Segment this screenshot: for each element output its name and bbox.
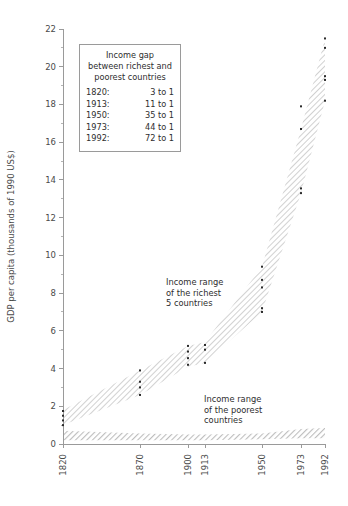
data-point: [261, 286, 263, 288]
legend-row-year: 1992:: [86, 133, 110, 145]
x-tick-label: 1870: [135, 454, 145, 476]
y-axis-title-text: GDP per capita (thousands of 1990 US$): [6, 150, 16, 322]
richest-annotation-line-1: Income range: [166, 277, 223, 288]
data-point: [300, 105, 302, 107]
legend-row-ratio: 3 to 1: [150, 87, 174, 99]
poorest-annotation-line-3: countries: [204, 415, 262, 426]
legend-row: 1913:11 to 1: [86, 99, 174, 111]
data-point: [261, 266, 263, 268]
y-axis-ticks: [59, 29, 63, 444]
richest-annotation-line-3: 5 countries: [166, 298, 223, 309]
data-point: [261, 311, 263, 313]
y-tick-label: 8: [51, 288, 56, 298]
y-tick-label: 16: [45, 137, 56, 147]
y-tick-label: 12: [45, 213, 56, 223]
legend-row: 1950:35 to 1: [86, 110, 174, 122]
y-tick-label: 0: [51, 439, 56, 449]
x-tick-label: 1973: [296, 454, 306, 476]
data-point: [261, 307, 263, 309]
data-point: [324, 100, 326, 102]
legend-row-ratio: 11 to 1: [145, 99, 174, 111]
richest-annotation-line-2: of the richest: [166, 288, 223, 299]
legend-row-year: 1950:: [86, 110, 110, 122]
legend-title-line-2: between richest and: [86, 61, 174, 72]
y-tick-label: 18: [45, 99, 56, 109]
data-point: [324, 79, 326, 81]
y-tick-label: 14: [45, 175, 56, 185]
x-tick-label: 1900: [183, 454, 193, 476]
y-tick-label: 4: [51, 364, 56, 374]
legend-row-ratio: 44 to 1: [145, 122, 174, 134]
y-axis-title: GDP per capita (thousands of 1990 US$): [6, 150, 16, 322]
x-tick-label: 1950: [257, 454, 267, 476]
legend-row: 1992:72 to 1: [86, 133, 174, 145]
data-point: [204, 344, 206, 346]
data-point: [261, 279, 263, 281]
data-point: [187, 351, 189, 353]
data-point: [324, 37, 326, 39]
x-tick-label: 1913: [200, 454, 210, 476]
data-point: [300, 128, 302, 130]
data-point: [139, 369, 141, 371]
data-point: [187, 345, 189, 347]
data-point: [62, 415, 64, 417]
data-point: [139, 394, 141, 396]
legend-row-list: 1820:3 to 11913:11 to 11950:35 to 11973:…: [86, 87, 174, 145]
data-point: [62, 410, 64, 412]
y-tick-label: 2: [51, 401, 56, 411]
data-point: [300, 187, 302, 189]
data-point: [300, 192, 302, 194]
data-point: [187, 364, 189, 366]
data-point: [324, 47, 326, 49]
poorest-band-annotation: Income range of the poorest countries: [204, 394, 262, 426]
poorest-annotation-line-1: Income range: [204, 394, 262, 405]
legend-row: 1973:44 to 1: [86, 122, 174, 134]
data-point: [187, 357, 189, 359]
y-tick-label: 6: [51, 326, 56, 336]
legend-row-ratio: 35 to 1: [145, 110, 174, 122]
data-point: [139, 386, 141, 388]
gdp-per-capita-chart: 0246810121416182022 18201870190019131950…: [0, 0, 348, 506]
x-axis-ticks: [63, 444, 325, 448]
income-gap-legend-box: Income gap between richest and poorest c…: [79, 44, 181, 152]
legend-title: Income gap between richest and poorest c…: [86, 50, 174, 83]
data-point: [204, 362, 206, 364]
x-tick-label: 1820: [58, 454, 68, 476]
legend-row-year: 1973:: [86, 122, 110, 134]
y-tick-label: 22: [45, 24, 56, 34]
poorest-countries-band: [63, 428, 325, 440]
legend-row-year: 1820:: [86, 87, 110, 99]
x-axis-tick-labels: 1820187019001913195019731992: [58, 454, 330, 476]
poorest-annotation-line-2: of the poorest: [204, 405, 262, 416]
data-point: [62, 424, 64, 426]
legend-title-line-3: poorest countries: [86, 72, 174, 83]
data-point: [62, 419, 64, 421]
data-point: [139, 381, 141, 383]
x-tick-label: 1992: [320, 454, 330, 476]
legend-row-ratio: 72 to 1: [145, 133, 174, 145]
data-point: [324, 75, 326, 77]
y-axis-tick-labels: 0246810121416182022: [45, 24, 56, 449]
data-point: [204, 349, 206, 351]
legend-row-year: 1913:: [86, 99, 110, 111]
legend-row: 1820:3 to 1: [86, 87, 174, 99]
y-tick-label: 20: [45, 62, 56, 72]
y-tick-label: 10: [45, 250, 56, 260]
richest-band-annotation: Income range of the richest 5 countries: [166, 277, 223, 309]
legend-title-line-1: Income gap: [86, 50, 174, 61]
